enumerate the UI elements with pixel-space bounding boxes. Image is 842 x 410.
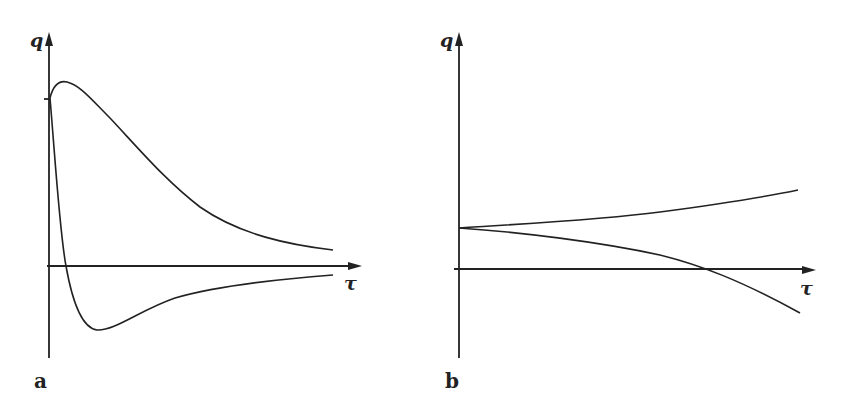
y-axis-arrow-a <box>45 32 53 46</box>
upper-curve-b <box>459 190 798 228</box>
lower-curve-a <box>50 98 333 330</box>
y-axis-label-b: q <box>440 29 453 51</box>
x-axis-arrow-a <box>348 262 362 270</box>
lower-curve-b <box>459 228 800 313</box>
x-axis-arrow-b <box>802 266 816 274</box>
x-axis-label-b: τ <box>800 277 813 299</box>
x-axis-label-a: τ <box>344 272 357 294</box>
figure: q τ a q τ b <box>0 0 842 410</box>
y-axis-label-a: q <box>30 29 43 51</box>
panel-a: q τ a <box>30 29 362 393</box>
panel-b: q τ b <box>440 29 816 393</box>
y-axis-arrow-b <box>455 32 463 46</box>
upper-curve-a <box>50 82 333 250</box>
panel-label-b: b <box>445 369 459 393</box>
chart-canvas: q τ a q τ b <box>0 0 842 410</box>
panel-label-a: a <box>34 369 47 393</box>
